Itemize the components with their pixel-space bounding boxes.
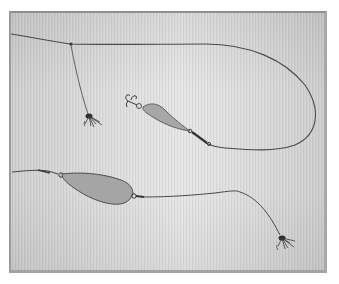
lower-tail-swivel-icon: [132, 194, 144, 198]
lower-trailing-line: [144, 191, 280, 235]
dropper-line: [71, 45, 88, 114]
upper-fly-icon: [84, 113, 102, 127]
tackle-illustration: [0, 0, 339, 284]
upper-main-line: [11, 34, 315, 150]
treble-hook-icon: [126, 95, 137, 107]
lower-lead-line: [12, 170, 58, 174]
upper-swivel-icon: [188, 129, 210, 145]
upper-rig: [11, 34, 315, 150]
lower-fly-icon: [277, 236, 295, 251]
upper-split-ring: [137, 104, 142, 109]
lower-rig: [12, 170, 295, 250]
upper-spoon-lure: [143, 104, 190, 131]
lower-spoon-lure: [62, 173, 133, 204]
